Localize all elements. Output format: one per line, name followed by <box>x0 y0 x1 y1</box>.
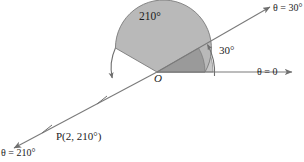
label-ray-30: θ = 30° <box>273 2 302 13</box>
label-point-p: P(2, 210°) <box>56 130 101 142</box>
label-ray-0: θ = 0 <box>257 66 277 77</box>
polar-angle-diagram: { "diagram": { "title_label": "210\u00b0… <box>0 0 304 162</box>
label-angle-30: 30° <box>219 44 234 56</box>
figure-canvas <box>0 0 304 162</box>
label-angle-210: 210° <box>139 10 161 22</box>
tick-mark-1 <box>97 96 107 104</box>
arc-210-arrow <box>111 48 115 78</box>
label-origin: O <box>154 72 162 84</box>
label-ray-210: θ = 210° <box>1 147 35 158</box>
